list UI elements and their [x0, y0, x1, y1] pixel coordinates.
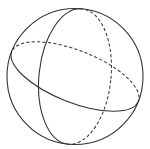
vertical-great-circle: [32, 5, 118, 148]
sphere-diagram: [0, 0, 150, 149]
diagram-canvas: [0, 0, 150, 149]
horizontal-circle-front-arc: [2, 27, 148, 125]
vertical-circle-front-arc: [32, 5, 118, 148]
sphere-outline: [7, 9, 143, 145]
vertical-circle-back-arc: [32, 5, 118, 148]
horizontal-great-circle: [2, 27, 148, 125]
